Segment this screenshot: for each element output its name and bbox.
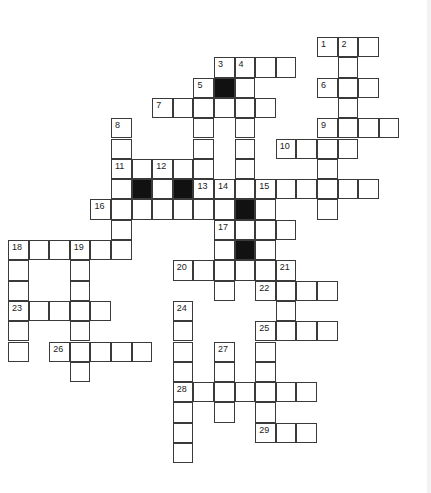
crossword-cell[interactable] bbox=[193, 98, 214, 118]
numbered-cell-4[interactable]: 4 bbox=[235, 57, 256, 77]
crossword-cell[interactable] bbox=[296, 139, 317, 159]
crossword-cell[interactable] bbox=[235, 78, 256, 98]
crossword-cell[interactable] bbox=[193, 260, 214, 280]
crossword-cell[interactable] bbox=[214, 362, 235, 382]
numbered-cell-16[interactable]: 16 bbox=[90, 199, 111, 219]
numbered-cell-10[interactable]: 10 bbox=[276, 139, 297, 159]
numbered-cell-23[interactable]: 23 bbox=[8, 301, 29, 321]
crossword-cell[interactable] bbox=[338, 57, 359, 77]
crossword-cell[interactable] bbox=[70, 260, 91, 280]
numbered-cell-28[interactable]: 28 bbox=[173, 382, 194, 402]
numbered-cell-29[interactable]: 29 bbox=[255, 423, 276, 443]
numbered-cell-11[interactable]: 11 bbox=[111, 159, 132, 179]
crossword-cell[interactable] bbox=[317, 321, 338, 341]
numbered-cell-13[interactable]: 13 bbox=[193, 179, 214, 199]
crossword-cell[interactable] bbox=[235, 139, 256, 159]
crossword-cell[interactable] bbox=[49, 301, 70, 321]
crossword-cell[interactable] bbox=[214, 382, 235, 402]
crossword-cell[interactable] bbox=[70, 362, 91, 382]
crossword-cell[interactable] bbox=[235, 220, 256, 240]
crossword-cell[interactable] bbox=[276, 57, 297, 77]
crossword-cell[interactable] bbox=[235, 260, 256, 280]
crossword-cell[interactable] bbox=[214, 199, 235, 219]
crossword-cell[interactable] bbox=[173, 199, 194, 219]
crossword-cell[interactable] bbox=[29, 240, 50, 260]
crossword-cell[interactable] bbox=[111, 240, 132, 260]
crossword-cell[interactable] bbox=[90, 342, 111, 362]
numbered-cell-8[interactable]: 8 bbox=[111, 118, 132, 138]
crossword-cell[interactable] bbox=[276, 179, 297, 199]
crossword-cell[interactable] bbox=[173, 159, 194, 179]
numbered-cell-18[interactable]: 18 bbox=[8, 240, 29, 260]
crossword-cell[interactable] bbox=[296, 423, 317, 443]
crossword-cell[interactable] bbox=[132, 342, 153, 362]
crossword-cell[interactable] bbox=[338, 98, 359, 118]
numbered-cell-20[interactable]: 20 bbox=[173, 260, 194, 280]
crossword-cell[interactable] bbox=[214, 402, 235, 422]
crossword-cell[interactable] bbox=[8, 260, 29, 280]
crossword-cell[interactable] bbox=[173, 98, 194, 118]
crossword-cell[interactable] bbox=[235, 382, 256, 402]
crossword-cell[interactable] bbox=[255, 57, 276, 77]
crossword-cell[interactable] bbox=[358, 37, 379, 57]
crossword-cell[interactable] bbox=[296, 179, 317, 199]
crossword-cell[interactable] bbox=[111, 342, 132, 362]
crossword-cell[interactable] bbox=[90, 301, 111, 321]
crossword-cell[interactable] bbox=[70, 321, 91, 341]
crossword-cell[interactable] bbox=[255, 382, 276, 402]
crossword-cell[interactable] bbox=[255, 199, 276, 219]
crossword-cell[interactable] bbox=[255, 98, 276, 118]
numbered-cell-9[interactable]: 9 bbox=[317, 118, 338, 138]
crossword-cell[interactable] bbox=[132, 159, 153, 179]
numbered-cell-24[interactable]: 24 bbox=[173, 301, 194, 321]
crossword-cell[interactable] bbox=[358, 118, 379, 138]
crossword-cell[interactable] bbox=[8, 281, 29, 301]
crossword-cell[interactable] bbox=[193, 159, 214, 179]
numbered-cell-25[interactable]: 25 bbox=[255, 321, 276, 341]
crossword-cell[interactable] bbox=[214, 281, 235, 301]
crossword-cell[interactable] bbox=[173, 362, 194, 382]
numbered-cell-6[interactable]: 6 bbox=[317, 78, 338, 98]
crossword-cell[interactable] bbox=[152, 179, 173, 199]
crossword-cell[interactable] bbox=[358, 78, 379, 98]
numbered-cell-7[interactable]: 7 bbox=[152, 98, 173, 118]
crossword-cell[interactable] bbox=[317, 281, 338, 301]
crossword-cell[interactable] bbox=[317, 159, 338, 179]
crossword-cell[interactable] bbox=[317, 139, 338, 159]
crossword-cell[interactable] bbox=[235, 179, 256, 199]
crossword-cell[interactable] bbox=[70, 281, 91, 301]
crossword-cell[interactable] bbox=[255, 220, 276, 240]
crossword-cell[interactable] bbox=[255, 260, 276, 280]
crossword-cell[interactable] bbox=[276, 281, 297, 301]
crossword-cell[interactable] bbox=[193, 139, 214, 159]
numbered-cell-26[interactable]: 26 bbox=[49, 342, 70, 362]
crossword-cell[interactable] bbox=[29, 301, 50, 321]
crossword-cell[interactable] bbox=[111, 179, 132, 199]
crossword-cell[interactable] bbox=[132, 199, 153, 219]
crossword-cell[interactable] bbox=[276, 220, 297, 240]
crossword-cell[interactable] bbox=[255, 342, 276, 362]
numbered-cell-2[interactable]: 2 bbox=[338, 37, 359, 57]
crossword-cell[interactable] bbox=[214, 260, 235, 280]
crossword-cell[interactable] bbox=[173, 423, 194, 443]
crossword-cell[interactable] bbox=[193, 118, 214, 138]
crossword-cell[interactable] bbox=[276, 301, 297, 321]
crossword-cell[interactable] bbox=[276, 321, 297, 341]
numbered-cell-17[interactable]: 17 bbox=[214, 220, 235, 240]
crossword-cell[interactable] bbox=[193, 382, 214, 402]
crossword-cell[interactable] bbox=[111, 220, 132, 240]
crossword-cell[interactable] bbox=[235, 159, 256, 179]
numbered-cell-12[interactable]: 12 bbox=[152, 159, 173, 179]
crossword-cell[interactable] bbox=[8, 321, 29, 341]
crossword-cell[interactable] bbox=[338, 179, 359, 199]
crossword-cell[interactable] bbox=[70, 301, 91, 321]
crossword-cell[interactable] bbox=[152, 199, 173, 219]
crossword-cell[interactable] bbox=[173, 443, 194, 463]
crossword-cell[interactable] bbox=[358, 179, 379, 199]
crossword-cell[interactable] bbox=[255, 402, 276, 422]
crossword-cell[interactable] bbox=[255, 362, 276, 382]
crossword-cell[interactable] bbox=[193, 199, 214, 219]
crossword-cell[interactable] bbox=[296, 382, 317, 402]
crossword-cell[interactable] bbox=[276, 423, 297, 443]
crossword-cell[interactable] bbox=[49, 240, 70, 260]
